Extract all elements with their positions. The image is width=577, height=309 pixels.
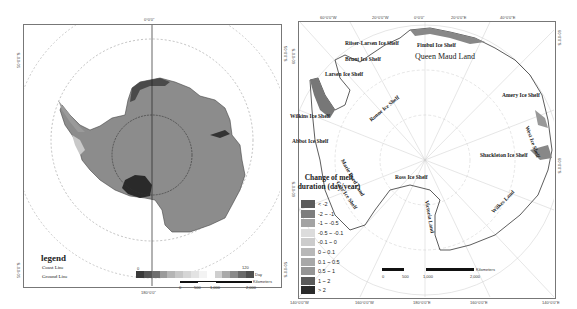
colorbar-unit: Day [255,272,262,277]
legend-label: < -2 [318,201,328,207]
right-top-tick-0: 60°0'0"W [320,15,336,20]
right-top-tick-2: 0°0'0" [414,15,424,20]
right-map-panel: 60°0'0"W 20°0'0"W 0°0'0" 20°0'0"E 40°0'0… [290,0,577,309]
colorbar-swatch [222,271,230,278]
melt-legend-item: 0.1 ~ 0.5 [301,258,340,266]
right-scalebar [382,268,474,271]
left-left-lower-tick: 50°0'0"S [16,263,21,278]
right-top-tick-3: 20°0'0"E [451,15,466,20]
right-top-tick-1: 20°0'0"W [372,15,388,20]
colorbar-swatch [215,271,223,278]
melt-legend-item: 1 ~ 2 [301,277,330,285]
colorbar-swatch [152,271,160,278]
place-label: Fimbul Ice Shelf [417,42,456,48]
place-label: Abbot Ice Shelf [292,138,328,144]
right-bottom-tick-1: 160°0'0"W [355,300,374,305]
colorbar-swatch [167,271,175,278]
left-top-tick: 0°0'0" [144,17,154,22]
colorbar-swatch [207,271,215,278]
left-map-panel: 0°0'0" 180°0'0" 50°0'0"S 50°0'0"S 50°0'0… [0,0,290,309]
left-scalebar-label-0: 0 [179,285,181,290]
legend-swatch [301,248,315,256]
left-left-upper-tick: 50°0'0"S [16,53,21,68]
colorbar-swatch [183,271,191,278]
right-bottom-tick-0: 140°0'0"W [290,300,309,305]
right-bottom-tick-4: 140°0'0"E [542,300,560,305]
place-label: Amery Ice Shelf [502,92,540,98]
melt-legend-item: 0 ~ 0.1 [301,248,335,256]
melt-legend-item: 0.5 ~ 1 [301,267,335,275]
left-scalebar [180,281,252,283]
left-right-lower-tick: 50°0'0"S [283,262,288,277]
colorbar-swatch [136,271,144,278]
place-label: Brunt Ice Shelf [345,56,381,62]
colorbar-max-label: 120 [242,265,249,270]
colorbar-swatch [199,271,207,278]
legend-label: -0.5 ~ -0.1 [318,230,343,236]
right-scalebar-unit: Kilometers [476,267,495,272]
legend-label: -1 ~ -0.5 [318,220,339,226]
place-label: Shackleton Ice Shelf [480,152,528,158]
right-bottom-tick-3: 160°0'0"E [470,300,488,305]
left-scalebar-label-1: 500 [194,285,201,290]
melt-legend-item: -0.5 ~ -0.1 [301,229,343,237]
right-bottom-tick-2: 180°0'0"E [413,300,431,305]
melt-duration-colorbar [136,271,254,278]
legend-ground-line: Ground Line [42,274,68,279]
legend-label: 1 ~ 2 [318,278,330,284]
left-bottom-tick: 180°0'0" [141,290,156,295]
right-scalebar-label-2: 1,000 [423,274,433,279]
right-scalebar-label-0: 0 [382,274,384,279]
legend-swatch [301,210,315,218]
melt-legend-item: -2 ~ -1 [301,210,334,218]
melt-legend-title: Change of melt duration (day/year) [294,173,364,191]
left-scalebar-label-3: 2,000 [246,285,256,290]
right-left-tick-0: 60°0'0"S [291,49,296,64]
left-right-upper-tick: 50°0'0"S [283,46,288,61]
colorbar-swatch [238,271,246,278]
legend-label: 0.1 ~ 0.5 [318,259,340,265]
colorbar-swatch [175,271,183,278]
legend-swatch [301,277,315,285]
legend-label: > 2 [318,287,326,293]
legend-swatch [301,267,315,275]
colorbar-swatch [246,271,254,278]
left-legend-title: legend [41,253,66,263]
left-scalebar-unit: Kilometers [253,279,272,284]
place-label: Wilkins Ice Shelf [290,113,330,119]
place-label: Riiser-Larsen Ice Shelf [345,40,399,46]
melt-legend-item: < -2 [301,200,328,208]
colorbar-swatch [160,271,168,278]
melt-legend-item: -0.1 ~ 0 [301,238,337,246]
place-label: Ross Ice Shelf [395,174,428,180]
right-scalebar-label-1: 500 [402,274,409,279]
colorbar-swatch [191,271,199,278]
legend-coast-line: Coast Line [42,265,64,270]
place-label: Queen Maud Land [415,52,475,61]
legend-swatch [301,238,315,246]
legend-swatch [301,258,315,266]
legend-label: -0.1 ~ 0 [318,239,337,245]
right-right-tick-1: 60°0'0"S [557,158,562,173]
melt-legend-item: > 2 [301,286,326,294]
right-scalebar-label-3: 2,000 [470,274,480,279]
legend-label: 0.5 ~ 1 [318,268,335,274]
legend-swatch [301,200,315,208]
melt-legend-item: -1 ~ -0.5 [301,219,339,227]
colorbar-swatch [230,271,238,278]
left-scalebar-label-2: 1,000 [210,285,220,290]
legend-swatch [301,286,315,294]
legend-label: 0 ~ 0.1 [318,249,335,255]
legend-label: -2 ~ -1 [318,211,334,217]
right-top-tick-4: 40°0'0"E [500,15,515,20]
legend-swatch [301,219,315,227]
legend-swatch [301,229,315,237]
right-right-tick-0: 60°0'0"S [557,30,562,45]
colorbar-swatch [144,271,152,278]
place-label: Larsen Ice Shelf [325,71,363,77]
